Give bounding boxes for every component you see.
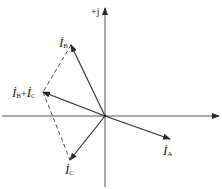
- label-ib-plus-ic: İB+İC: [11, 85, 36, 100]
- label-ia: İA: [162, 143, 172, 158]
- label-ic: İC: [64, 162, 74, 177]
- phasor-ia: [105, 116, 170, 139]
- phasor-diagram: +j İB İB+İC İC İA: [0, 0, 222, 189]
- phasor-ic: [70, 116, 105, 160]
- label-ib: İB: [58, 35, 68, 50]
- imaginary-axis-label: +j: [91, 6, 99, 17]
- origin-point: [104, 115, 107, 118]
- parallelogram-dashed-lines: [43, 45, 71, 160]
